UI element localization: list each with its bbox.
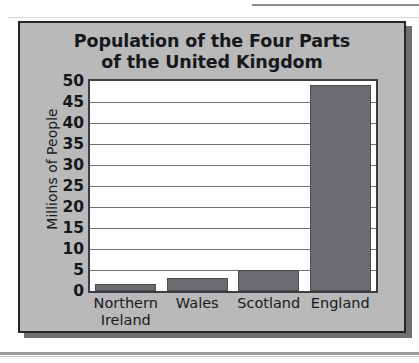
bar-chart-figure: Population of the Four Parts of the Unit… [18, 21, 406, 333]
x-axis-category-label: Wales [162, 295, 234, 312]
x-axis-category-label-line: Ireland [90, 312, 162, 329]
chart-title: Population of the Four Parts of the Unit… [20, 31, 404, 72]
bar [238, 270, 299, 291]
x-axis-category-label-line: Wales [162, 295, 234, 312]
bar [167, 278, 228, 291]
y-axis-tick-label: 10 [38, 240, 84, 258]
y-axis-tick-label: 30 [38, 156, 84, 174]
y-axis-tick-label: 0 [38, 282, 84, 300]
x-axis-category-labels: NorthernIrelandWalesScotlandEngland [88, 295, 378, 335]
x-axis-category-label: NorthernIreland [90, 295, 162, 330]
bar [95, 284, 156, 291]
x-axis-category-label: England [305, 295, 377, 312]
y-axis-tick-label: 25 [38, 177, 84, 195]
x-axis-category-label-line: England [305, 295, 377, 312]
x-axis-category-label: Scotland [233, 295, 305, 312]
y-axis-tick-label: 15 [38, 219, 84, 237]
page-rule-bottom [0, 352, 419, 355]
page-rule-top-hairline [8, 17, 419, 18]
chart-title-line-2: of the United Kingdom [20, 52, 404, 73]
page-rule-bottom-hairline [0, 356, 419, 357]
y-axis-tick-label: 35 [38, 135, 84, 153]
page-rule-top [252, 4, 419, 6]
y-axis-tick-label: 20 [38, 198, 84, 216]
bar [310, 85, 371, 291]
y-axis-tick-label: 45 [38, 93, 84, 111]
chart-title-line-1: Population of the Four Parts [20, 31, 404, 52]
y-axis-tick-label: 5 [38, 261, 84, 279]
y-axis-tick-label: 50 [38, 72, 84, 90]
x-axis-category-label-line: Scotland [233, 295, 305, 312]
y-axis-tick-label: 40 [38, 114, 84, 132]
bars-group [90, 81, 376, 291]
x-axis-category-label-line: Northern [90, 295, 162, 312]
